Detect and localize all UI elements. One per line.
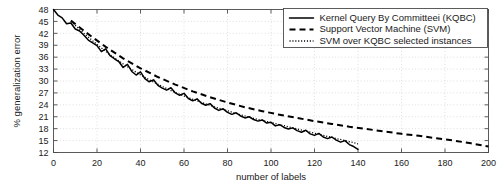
y-tick-label: 21 bbox=[38, 112, 48, 122]
x-tick-label: 20 bbox=[92, 158, 102, 168]
x-tick-label: 60 bbox=[179, 158, 189, 168]
x-tick-label: 160 bbox=[394, 158, 409, 168]
x-axis-title: number of labels bbox=[236, 171, 306, 182]
y-tick-label: 27 bbox=[38, 88, 48, 98]
chart-figure: 1215182124273033363942454802040608010012… bbox=[0, 0, 503, 186]
y-tick-label: 12 bbox=[38, 148, 48, 158]
y-tick-label: 33 bbox=[38, 64, 48, 74]
legend[interactable]: Kernel Query By Committeei (KQBC)Support… bbox=[284, 9, 488, 48]
y-tick-label: 36 bbox=[38, 52, 48, 62]
y-tick-label: 24 bbox=[38, 100, 48, 110]
generalization-error-line-chart: 1215182124273033363942454802040608010012… bbox=[0, 0, 503, 186]
y-tick-label: 15 bbox=[38, 136, 48, 146]
y-tick-label: 48 bbox=[38, 5, 48, 15]
y-tick-label: 39 bbox=[38, 40, 48, 50]
x-tick-label: 80 bbox=[222, 158, 232, 168]
y-tick-label: 30 bbox=[38, 76, 48, 86]
x-tick-label: 0 bbox=[51, 158, 56, 168]
legend-label-1: Kernel Query By Committeei (KQBC) bbox=[320, 12, 476, 23]
y-axis-title: % generalization error bbox=[11, 35, 22, 128]
x-tick-label: 180 bbox=[437, 158, 452, 168]
legend-label-3: SVM over KQBC selected instances bbox=[320, 35, 472, 46]
y-tick-label: 45 bbox=[38, 17, 48, 27]
x-tick-label: 40 bbox=[135, 158, 145, 168]
x-tick-label: 200 bbox=[481, 158, 496, 168]
y-tick-label: 42 bbox=[38, 29, 48, 39]
x-tick-label: 140 bbox=[350, 158, 365, 168]
legend-label-2: Support Vector Machine (SVM) bbox=[320, 23, 451, 34]
x-tick-label: 100 bbox=[263, 158, 278, 168]
y-tick-label: 18 bbox=[38, 124, 48, 134]
x-tick-label: 120 bbox=[307, 158, 322, 168]
